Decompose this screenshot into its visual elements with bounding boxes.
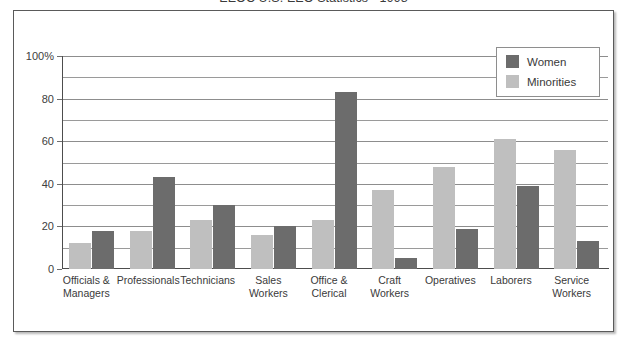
x-axis-label-line: Service	[541, 274, 602, 287]
y-axis-tick-label: 100%	[8, 50, 54, 62]
bar-minorities	[69, 243, 91, 269]
chart-legend: WomenMinorities	[496, 47, 600, 97]
bar-minorities	[130, 231, 152, 269]
bar-women	[213, 205, 235, 269]
y-axis-tick-mark	[57, 269, 62, 270]
y-axis-tick-mark	[57, 226, 62, 227]
legend-swatch-minorities	[506, 75, 519, 88]
bar-women	[335, 92, 357, 269]
bar-women	[395, 258, 417, 269]
x-axis-label: SalesWorkers	[238, 274, 299, 300]
x-axis-label: Operatives	[420, 274, 481, 287]
x-axis-label-line: Workers	[359, 287, 420, 300]
bar-women	[92, 231, 114, 269]
y-axis-tick-label: 80	[8, 93, 54, 105]
y-axis-tick-mark	[57, 141, 62, 142]
bar-women	[456, 229, 478, 269]
x-axis-label: Technicians	[177, 274, 238, 287]
bar-minorities	[372, 190, 394, 269]
x-axis-label: Office &Clerical	[299, 274, 360, 300]
legend-swatch-women	[506, 55, 519, 68]
chart-title-band: EEOC U.S. EEO Statistics - 1998	[0, 0, 627, 9]
x-axis-label-line: Workers	[541, 287, 602, 300]
x-axis-label-line: Laborers	[481, 274, 542, 287]
x-axis-label-line: Operatives	[420, 274, 481, 287]
chart-page: EEOC U.S. EEO Statistics - 1998 WomenMin…	[0, 0, 627, 344]
bar-minorities	[190, 220, 212, 269]
bar-women	[577, 241, 599, 269]
x-axis-label: CraftWorkers	[359, 274, 420, 300]
y-axis-tick-label: 40	[8, 178, 54, 190]
chart-title: EEOC U.S. EEO Statistics - 1998	[0, 0, 627, 5]
y-axis-tick-mark	[57, 99, 62, 100]
bar-minorities	[554, 150, 576, 269]
legend-label: Women	[527, 56, 566, 68]
x-axis-label-line: Officials &	[56, 274, 117, 287]
x-axis-label-line: Sales	[238, 274, 299, 287]
legend-entry: Women	[506, 55, 591, 68]
x-axis-label-line: Technicians	[177, 274, 238, 287]
legend-label: Minorities	[527, 76, 576, 88]
bar-women	[517, 186, 539, 269]
legend-entry: Minorities	[506, 75, 591, 88]
y-axis-tick-mark	[57, 56, 62, 57]
bar-minorities	[312, 220, 334, 269]
x-axis-label: ServiceWorkers	[541, 274, 602, 300]
y-axis-tick-label: 20	[8, 220, 54, 232]
x-axis-label-line: Workers	[238, 287, 299, 300]
y-axis-tick-label: 0	[8, 263, 54, 275]
bar-women	[153, 177, 175, 269]
y-axis-tick-label: 60	[8, 135, 54, 147]
bar-minorities	[251, 235, 273, 269]
bar-minorities	[433, 167, 455, 269]
x-axis-label-line: Clerical	[299, 287, 360, 300]
bar-women	[274, 226, 296, 269]
bar-minorities	[494, 139, 516, 269]
x-axis-label: Laborers	[481, 274, 542, 287]
x-axis-label-line: Craft	[359, 274, 420, 287]
x-axis-label: Officials &Managers	[56, 274, 117, 300]
y-axis-tick-mark	[57, 184, 62, 185]
x-axis-label-line: Managers	[56, 287, 117, 300]
x-axis-label: Professionals	[117, 274, 178, 287]
x-axis-label-line: Office &	[299, 274, 360, 287]
x-axis-label-line: Professionals	[117, 274, 178, 287]
